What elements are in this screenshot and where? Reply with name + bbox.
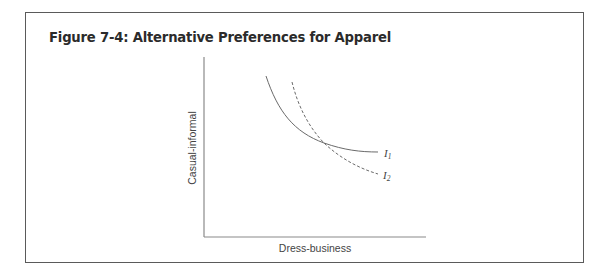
- y-axis-label: Casual-informal: [186, 111, 198, 185]
- indifference-curve-chart: Casual-informal Dress-business I1 I2: [0, 0, 614, 278]
- curve-i2-label: I2: [382, 169, 391, 183]
- x-axis-label: Dress-business: [279, 242, 351, 254]
- curve-i1-label: I1: [383, 147, 391, 161]
- curve-i2: [292, 82, 378, 174]
